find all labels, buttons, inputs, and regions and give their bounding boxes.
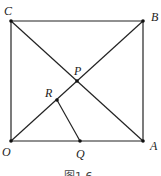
point-p (75, 79, 79, 83)
label-q: Q (76, 147, 85, 161)
label-c: C (4, 4, 13, 18)
point-r (55, 98, 59, 102)
figure-caption: 图1.6 (64, 170, 93, 176)
point-b (141, 19, 145, 23)
label-o: O (2, 145, 11, 159)
point-c (9, 19, 13, 23)
geometry-figure: C B O A P R Q 图1.6 (0, 0, 161, 176)
label-b: B (151, 10, 159, 24)
point-q (78, 139, 82, 143)
point-o (9, 139, 13, 143)
label-p: P (73, 64, 82, 78)
label-r: R (44, 86, 53, 100)
label-a: A (149, 139, 158, 153)
point-a (141, 139, 145, 143)
segment-rq (57, 100, 80, 141)
